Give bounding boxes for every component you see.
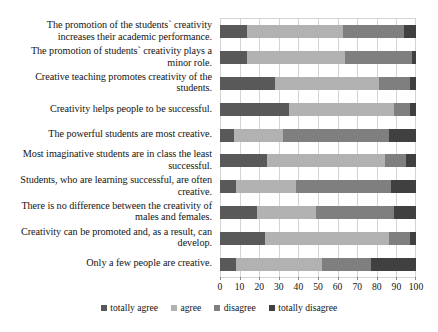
bar-segment-disagree[interactable] [345, 51, 412, 64]
stacked-bar[interactable] [220, 154, 416, 167]
stacked-bar[interactable] [220, 129, 416, 142]
bar-segment-totally-disagree[interactable] [406, 154, 416, 167]
bar-segment-totally-agree[interactable] [220, 232, 265, 245]
bar-segment-agree[interactable] [267, 154, 385, 167]
bar-segment-totally-disagree[interactable] [371, 258, 416, 271]
bar-row[interactable] [220, 174, 416, 200]
x-tick-mark [338, 277, 339, 280]
category-axis-labels: The promotion of the students` creativit… [8, 18, 216, 276]
bar-segment-totally-agree[interactable] [220, 103, 289, 116]
legend-swatch-icon [101, 305, 107, 311]
bar-segment-totally-disagree[interactable] [410, 103, 416, 116]
stacked-bar-chart: The promotion of the students` creativit… [0, 0, 438, 332]
stacked-bar[interactable] [220, 51, 416, 64]
bar-segment-agree[interactable] [247, 25, 343, 38]
stacked-bar[interactable] [220, 25, 416, 38]
stacked-bar[interactable] [220, 206, 416, 219]
bar-segment-totally-disagree[interactable] [410, 232, 416, 245]
category-label: Creative teaching promotes creativity of… [8, 70, 216, 96]
bar-segment-totally-disagree[interactable] [404, 25, 416, 38]
x-tick-mark [279, 277, 280, 280]
bar-row[interactable] [220, 71, 416, 97]
bar-segment-totally-agree[interactable] [220, 25, 247, 38]
bar-segment-disagree[interactable] [296, 180, 390, 193]
bar-segment-disagree[interactable] [322, 258, 371, 271]
bar-segment-disagree[interactable] [394, 103, 410, 116]
bar-segment-disagree[interactable] [283, 129, 389, 142]
bar-row[interactable] [220, 251, 416, 277]
x-tick-label: 70 [352, 281, 362, 292]
bar-segment-agree[interactable] [236, 258, 322, 271]
legend-swatch-icon [214, 305, 220, 311]
x-tick-mark [220, 277, 221, 280]
bar-segment-agree[interactable] [275, 77, 379, 90]
stacked-bar[interactable] [220, 77, 416, 90]
bar-row[interactable] [220, 225, 416, 251]
bar-segment-agree[interactable] [289, 103, 395, 116]
legend-label: agree [181, 302, 202, 313]
bar-segment-totally-disagree[interactable] [389, 129, 416, 142]
category-label: Most imaginative students are in class t… [8, 147, 216, 173]
chart-legend: totally agreeagreedisagreetotally disagr… [0, 302, 438, 313]
x-tick-mark [396, 277, 397, 280]
x-axis: 0102030405060708090100 [220, 277, 416, 295]
bar-segment-agree[interactable] [265, 232, 388, 245]
bar-segment-totally-disagree[interactable] [394, 206, 416, 219]
stacked-bar[interactable] [220, 180, 416, 193]
category-label: The powerful students are most creative. [8, 121, 216, 147]
x-tick-mark [377, 277, 378, 280]
bar-segment-agree[interactable] [236, 180, 297, 193]
bar-row[interactable] [220, 148, 416, 174]
bar-segment-disagree[interactable] [343, 25, 404, 38]
legend-item-totally-disagree[interactable]: totally disagree [269, 302, 337, 313]
plot-wrapper: The promotion of the students` creativit… [0, 0, 438, 296]
legend-swatch-icon [269, 305, 275, 311]
stacked-bar[interactable] [220, 103, 416, 116]
bar-segment-agree[interactable] [234, 129, 283, 142]
bar-segment-agree[interactable] [247, 51, 345, 64]
bar-segment-totally-agree[interactable] [220, 258, 236, 271]
legend-item-agree[interactable]: agree [171, 302, 201, 313]
bar-segment-disagree[interactable] [385, 154, 407, 167]
bar-segment-totally-agree[interactable] [220, 206, 257, 219]
x-tick-mark [240, 277, 241, 280]
x-tick-label: 60 [333, 281, 343, 292]
plot-area [220, 18, 416, 278]
bar-row[interactable] [220, 19, 416, 45]
x-tick-label: 30 [274, 281, 284, 292]
category-label: Creativity can be promoted and, as a res… [8, 224, 216, 250]
x-tick-label: 100 [409, 281, 423, 292]
bar-segment-disagree[interactable] [379, 77, 410, 90]
x-tick-label: 90 [392, 281, 402, 292]
x-tick-label: 0 [218, 281, 223, 292]
bar-segment-totally-disagree[interactable] [391, 180, 416, 193]
bar-segment-totally-agree[interactable] [220, 129, 234, 142]
stacked-bar[interactable] [220, 258, 416, 271]
legend-label: totally agree [110, 302, 158, 313]
legend-item-disagree[interactable]: disagree [214, 302, 255, 313]
category-label: Creativity helps people to be successful… [8, 95, 216, 121]
bar-segment-disagree[interactable] [389, 232, 411, 245]
legend-swatch-icon [171, 305, 177, 311]
bar-segment-disagree[interactable] [316, 206, 394, 219]
bar-segment-totally-agree[interactable] [220, 77, 275, 90]
x-tick-mark [318, 277, 319, 280]
stacked-bar[interactable] [220, 232, 416, 245]
bar-row[interactable] [220, 200, 416, 226]
legend-label: totally disagree [278, 302, 337, 313]
x-tick-mark [415, 277, 416, 280]
bar-segment-totally-disagree[interactable] [412, 51, 416, 64]
x-tick-mark [357, 277, 358, 280]
bar-segment-totally-agree[interactable] [220, 180, 236, 193]
bar-segment-totally-agree[interactable] [220, 154, 267, 167]
legend-item-totally-agree[interactable]: totally agree [101, 302, 158, 313]
x-tick-mark [259, 277, 260, 280]
bar-segment-totally-agree[interactable] [220, 51, 247, 64]
bar-row[interactable] [220, 45, 416, 71]
bar-segment-totally-disagree[interactable] [410, 77, 416, 90]
category-label: The promotion of students` creativity pl… [8, 44, 216, 70]
category-label: Students, who are learning successful, a… [8, 173, 216, 199]
bar-row[interactable] [220, 122, 416, 148]
bar-segment-agree[interactable] [257, 206, 316, 219]
bar-row[interactable] [220, 96, 416, 122]
